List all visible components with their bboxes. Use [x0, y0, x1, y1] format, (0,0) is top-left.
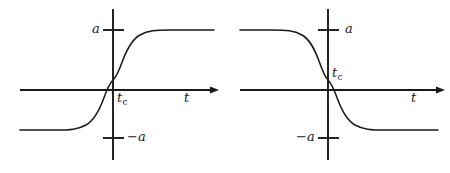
left-label-positive-a: a: [92, 22, 100, 35]
figure-two-panel-order-parameter-plots: a −a tc t a −a tc t: [0, 0, 450, 173]
left-label-critical-time-subscript: c: [123, 97, 128, 107]
left-label-time-axis: t: [184, 91, 189, 104]
left-label-critical-time: tc: [117, 91, 127, 104]
left-curve-increasing-sigmoid: [20, 30, 214, 130]
right-label-negative-a: −a: [296, 130, 315, 143]
left-x-axis-arrow-icon: [210, 86, 219, 93]
left-label-negative-a: −a: [127, 130, 146, 143]
right-x-axis-arrow-icon: [436, 86, 445, 93]
right-label-critical-time-base: t: [332, 65, 337, 80]
right-label-critical-time-subscript: c: [338, 72, 343, 82]
right-label-time-axis: t: [411, 91, 416, 104]
left-panel-graphics: [20, 9, 219, 160]
right-label-critical-time: tc: [332, 66, 342, 79]
left-label-critical-time-base: t: [117, 90, 122, 105]
right-label-positive-a: a: [345, 22, 353, 35]
plots-vector-canvas: [0, 0, 450, 173]
right-panel-graphics: [240, 9, 445, 160]
